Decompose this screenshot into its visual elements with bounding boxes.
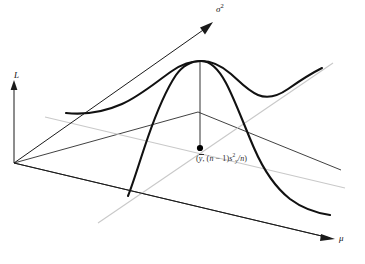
mean-axis-label: μ [339, 234, 344, 243]
base-edge-left-rear [14, 112, 198, 163]
cutting-plane-lines [45, 63, 345, 223]
figure-canvas [0, 0, 365, 264]
mle-label-ybar: y [199, 155, 203, 163]
profile-curve-variance [66, 61, 322, 114]
likelihood-axis-group [11, 80, 18, 163]
variance-axis-label: σ2 [216, 3, 224, 14]
likelihood-axis-arrowhead [11, 80, 18, 90]
variance-axis-arrowhead [200, 22, 213, 35]
mle-label-close-paren: ) [244, 154, 247, 163]
overbar-icon [199, 154, 204, 155]
mle-label-minus: − [214, 154, 223, 163]
likelihood-axis-label: L [14, 71, 19, 80]
variance-axis-shaft [14, 28, 206, 163]
mean-axis-arrowhead [320, 234, 335, 241]
plane-line-sigma-direction [98, 63, 333, 223]
mle-point-marker [197, 145, 203, 151]
likelihood-surface-figure: σ2 L μ (y, (n − 1)s2y/n) [0, 0, 365, 264]
profile-curve-mean [128, 61, 330, 215]
variance-axis-group [14, 22, 213, 163]
mle-point-label: (y, (n − 1)s2y/n) [196, 153, 247, 165]
plane-line-mu-direction [45, 117, 345, 188]
variance-axis-label-exponent: 2 [220, 2, 223, 9]
